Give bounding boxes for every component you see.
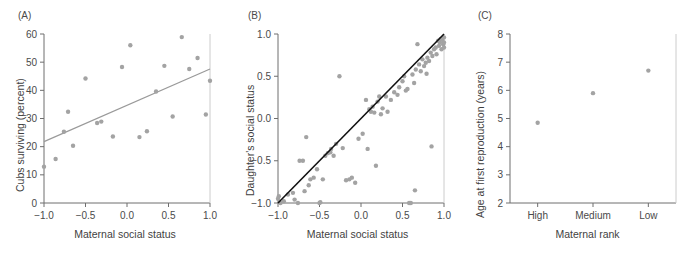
- panel-b-xtick-label: −0.5: [310, 210, 330, 221]
- data-point: [71, 144, 75, 148]
- data-point: [374, 164, 378, 168]
- data-point: [380, 106, 384, 110]
- data-point: [419, 69, 423, 73]
- data-point: [372, 110, 376, 114]
- panel-c-plot: 2345678HighMediumLow: [460, 0, 692, 255]
- data-point: [291, 191, 295, 195]
- panel-a-ytick-label: 30: [26, 113, 38, 124]
- panel-a-ytick-label: 50: [26, 57, 38, 68]
- panel-c-ytick-label: 5: [497, 113, 503, 124]
- panel-b-ytick-label: −1.0: [251, 198, 271, 209]
- data-point: [365, 147, 369, 151]
- panel-c-category-label: High: [527, 210, 548, 221]
- panel-c-ytick-label: 7: [497, 57, 503, 68]
- panel-b-xtick-label: 0.5: [396, 210, 410, 221]
- panel-b-ytick-label: −0.5: [251, 155, 271, 166]
- data-point: [307, 183, 311, 187]
- data-point: [111, 134, 115, 138]
- panel-b-ytick-label: 0.0: [257, 113, 271, 124]
- panel-a-ytick-label: 10: [26, 169, 38, 180]
- data-point: [180, 35, 184, 39]
- panel-b-ytick-label: 0.5: [257, 71, 271, 82]
- data-point: [341, 146, 345, 150]
- data-point: [304, 135, 308, 139]
- data-point: [187, 67, 191, 71]
- panel-c: (C) Age at first reproduction (years) Ma…: [460, 0, 692, 255]
- data-point: [646, 68, 650, 72]
- panel-a-xtick-label: 0.0: [120, 210, 134, 221]
- panel-b-xtick-label: 1.0: [437, 210, 451, 221]
- data-point: [170, 114, 174, 118]
- data-point: [427, 59, 431, 63]
- data-point: [409, 201, 413, 205]
- data-point: [95, 121, 99, 125]
- data-point: [331, 153, 335, 157]
- data-point: [66, 110, 70, 114]
- data-point: [315, 167, 319, 171]
- data-point: [128, 43, 132, 47]
- data-point: [385, 110, 389, 114]
- data-point: [434, 52, 438, 56]
- panel-a-ytick-label: 0: [31, 198, 37, 209]
- data-point: [430, 54, 434, 58]
- data-point: [145, 129, 149, 133]
- panel-a-plot: 0102030405060−1.0−0.50.00.51.0: [0, 0, 230, 255]
- panel-b-xtick-label: −1.0: [268, 210, 288, 221]
- panel-a-axis-spine: [44, 34, 210, 203]
- data-point: [302, 189, 306, 193]
- data-point: [356, 137, 360, 141]
- panel-a-xtick-label: −0.5: [76, 210, 96, 221]
- data-point: [318, 200, 322, 204]
- data-point: [535, 121, 539, 125]
- panel-c-axis-spine: [510, 34, 676, 203]
- data-point: [137, 135, 141, 139]
- data-point: [442, 45, 446, 49]
- data-point: [83, 76, 87, 80]
- data-point: [311, 175, 315, 179]
- data-point: [42, 164, 46, 168]
- data-point: [395, 93, 399, 97]
- panel-a-ytick-label: 40: [26, 85, 38, 96]
- data-point: [350, 175, 354, 179]
- data-point: [337, 74, 341, 78]
- data-point: [429, 144, 433, 148]
- data-point: [424, 72, 428, 76]
- panel-a-fit-line: [44, 69, 210, 142]
- panel-b-identity-line: [278, 34, 444, 203]
- panel-b-ytick-label: 1.0: [257, 29, 271, 40]
- panel-c-ytick-label: 6: [497, 85, 503, 96]
- data-point: [353, 181, 357, 185]
- panel-c-ytick-label: 2: [497, 198, 503, 209]
- data-point: [277, 194, 281, 198]
- data-point: [120, 65, 124, 69]
- data-point: [62, 130, 66, 134]
- panel-c-ytick-label: 8: [497, 29, 503, 40]
- panel-c-category-label: Low: [639, 210, 658, 221]
- data-point: [296, 201, 300, 205]
- panel-b-xtick-label: 0.0: [354, 210, 368, 221]
- data-point: [154, 89, 158, 93]
- data-point: [364, 98, 368, 102]
- panel-b-plot: −1.0−0.50.00.51.0−1.0−0.50.00.51.0: [230, 0, 460, 255]
- data-point: [301, 159, 305, 163]
- panel-c-category-label: Medium: [575, 210, 611, 221]
- data-point: [292, 197, 296, 201]
- panel-a-xtick-label: −1.0: [34, 210, 54, 221]
- panel-c-ytick-label: 4: [497, 141, 503, 152]
- data-point: [208, 79, 212, 83]
- data-point: [321, 177, 325, 181]
- data-point: [410, 72, 414, 76]
- data-point: [417, 62, 421, 66]
- data-point: [414, 67, 418, 71]
- panel-a: (A) Cubs surviving (percent) Maternal so…: [0, 0, 230, 255]
- data-point: [99, 119, 103, 123]
- data-point: [195, 56, 199, 60]
- data-point: [162, 64, 166, 68]
- data-point: [442, 40, 446, 44]
- data-point: [53, 157, 57, 161]
- figure-container: (A) Cubs surviving (percent) Maternal so…: [0, 0, 692, 255]
- data-point: [204, 112, 208, 116]
- panel-c-ytick-label: 3: [497, 169, 503, 180]
- panel-a-ytick-label: 60: [26, 29, 38, 40]
- data-point: [413, 188, 417, 192]
